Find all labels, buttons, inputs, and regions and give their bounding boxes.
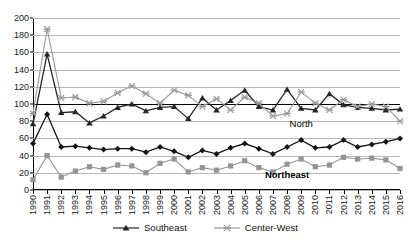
data-point-square [397, 166, 402, 171]
data-point-x [326, 107, 333, 113]
x-tick-label-text: 1993 [70, 195, 80, 215]
data-point-x [269, 113, 276, 119]
data-point-square [313, 164, 318, 169]
legend-label: Southeast [144, 223, 187, 233]
data-point-diamond [157, 144, 163, 150]
y-tick-label: 0 [24, 186, 29, 195]
data-point-diamond [369, 141, 375, 147]
data-point-diamond [242, 141, 248, 147]
y-tick-label: 20 [19, 168, 29, 177]
data-point-diamond [270, 151, 276, 157]
x-tick-mark [344, 190, 345, 194]
x-tick-mark [132, 190, 133, 194]
data-point-triangle [326, 91, 332, 96]
data-point-x [396, 118, 403, 124]
data-point-square [242, 158, 247, 163]
x-tick-mark [329, 190, 330, 194]
series-line [33, 114, 400, 157]
x-tick-label-text: 2010 [310, 195, 320, 215]
data-point-square [341, 155, 346, 160]
x-tick-mark [301, 190, 302, 194]
data-point-diamond [228, 145, 234, 151]
x-tick-mark [89, 190, 90, 194]
data-point-x [86, 100, 93, 106]
data-point-x [223, 225, 231, 231]
legend-item-southeast[interactable]: Southeast [112, 222, 187, 234]
x-tick-mark [273, 190, 274, 194]
data-point-triangle [199, 95, 205, 100]
x-tick-mark [245, 190, 246, 194]
data-point-triangle [241, 87, 247, 92]
data-point-triangle [44, 51, 50, 56]
y-tick-label: 120 [14, 82, 29, 91]
data-point-square [115, 162, 120, 167]
data-point-square [101, 167, 106, 172]
data-point-diamond [72, 143, 78, 149]
data-point-x [227, 107, 234, 113]
data-point-x [171, 87, 178, 93]
data-point-diamond [129, 146, 135, 152]
y-tick-label: 160 [14, 48, 29, 57]
series-north [30, 111, 403, 160]
chart-legend: SoutheastCenter-West [0, 222, 410, 234]
x-tick-mark [61, 190, 62, 194]
x-tick-mark [400, 190, 401, 194]
x-tick-mark [358, 190, 359, 194]
series-annotation-northeast: Northeast [265, 170, 309, 180]
data-point-square [157, 161, 162, 166]
y-tick-label: 200 [14, 14, 29, 23]
data-point-square [45, 153, 50, 158]
data-point-diamond [298, 137, 304, 143]
data-point-diamond [171, 148, 177, 154]
x-tick-label-text: 2003 [212, 195, 222, 215]
x-tick-label-text: 1991 [42, 195, 52, 215]
x-tick-mark [47, 190, 48, 194]
x-tick-label-text: 2013 [353, 195, 363, 215]
x-tick-label-text: 1997 [127, 195, 137, 215]
x-tick-mark [372, 190, 373, 194]
data-point-diamond [115, 146, 121, 152]
x-tick-label-text: 2011 [324, 195, 334, 214]
plot-area: 020406080100120140160180200 199019911992… [33, 18, 400, 190]
data-point-x [114, 90, 121, 96]
x-tick-mark [315, 190, 316, 194]
data-point-x [72, 94, 79, 100]
x-tick-mark [231, 190, 232, 194]
data-point-square [30, 177, 35, 182]
data-point-diamond [86, 145, 92, 151]
x-tick-mark [202, 190, 203, 194]
data-point-x [312, 100, 319, 106]
x-tick-mark [217, 190, 218, 194]
x-tick-label-text: 1995 [99, 195, 109, 215]
data-point-x [128, 83, 135, 89]
data-point-x [185, 93, 192, 99]
data-point-square [186, 169, 191, 174]
x-tick-mark [386, 190, 387, 194]
data-point-square [87, 164, 92, 169]
x-tick-label-text: 2004 [226, 195, 236, 215]
x-tick-label-text: 1994 [84, 195, 94, 215]
data-point-diamond [44, 111, 50, 117]
data-point-diamond [397, 135, 403, 141]
y-tick-label: 100 [14, 100, 29, 109]
data-point-diamond [58, 144, 64, 150]
data-point-square [200, 165, 205, 170]
data-point-x [100, 99, 107, 105]
data-point-diamond [256, 146, 262, 152]
y-tick-label: 80 [19, 117, 29, 126]
data-point-square [327, 162, 332, 167]
x-tick-label-text: 2005 [240, 195, 250, 215]
data-point-square [383, 157, 388, 162]
y-tick-label: 60 [19, 134, 29, 143]
legend-marker-x-icon [213, 222, 241, 234]
chart-figure: 020406080100120140160180200 199019911992… [0, 0, 410, 244]
data-point-x [241, 94, 248, 100]
data-point-diamond [341, 137, 347, 143]
legend-item-center-west[interactable]: Center-West [213, 222, 298, 234]
x-tick-mark [33, 190, 34, 194]
data-point-triangle [284, 86, 290, 91]
data-point-square [355, 156, 360, 161]
data-point-diamond [185, 154, 191, 160]
data-point-diamond [143, 149, 149, 155]
x-tick-mark [259, 190, 260, 194]
